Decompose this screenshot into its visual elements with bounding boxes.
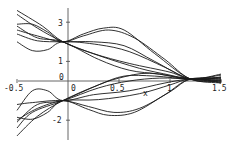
x-tick-label-0-5: 0.5: [110, 85, 124, 93]
y-tick-label-3: 3: [58, 20, 63, 28]
x-tick-label-neg-0-5: -0.5: [4, 85, 23, 93]
x-tick-label-1: 1: [167, 85, 172, 93]
y-tick-label-neg-2: -2: [52, 117, 62, 125]
curve-upper-3: [17, 24, 221, 82]
curve-upper-2: [17, 14, 221, 79]
curve-upper-5: [17, 34, 221, 80]
curve-family: [17, 10, 221, 135]
x-tick-label-1-5: 1.5: [212, 85, 226, 93]
y-tick-label-1: 1: [58, 58, 63, 66]
x-axis-name: x: [143, 90, 148, 98]
curve-upper-4: [17, 30, 221, 83]
x-tick-label-0: 0: [71, 85, 76, 93]
y-tick-label-0: 0: [59, 74, 64, 82]
chart-plot: [0, 0, 243, 147]
